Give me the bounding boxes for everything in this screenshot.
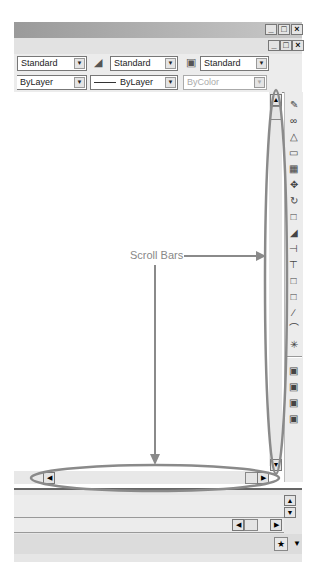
scroll-bars-callout: Scroll Bars: [130, 249, 183, 261]
annotation-overlay: [0, 0, 319, 562]
